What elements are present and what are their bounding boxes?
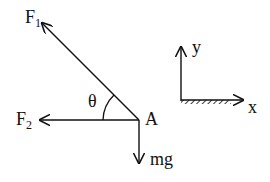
free-body-diagram: F1 F2 mg A θ y x [0, 0, 270, 182]
angle-theta-label: θ [88, 92, 97, 110]
force-mg-label: mg [150, 150, 173, 168]
x-axis-label: x [248, 98, 257, 116]
point-a-label: A [145, 110, 158, 128]
force-f2-label: F2 [16, 110, 32, 131]
y-axis-label: y [192, 38, 201, 56]
force-f1-label: F1 [25, 8, 41, 29]
angle-arc [103, 95, 114, 120]
